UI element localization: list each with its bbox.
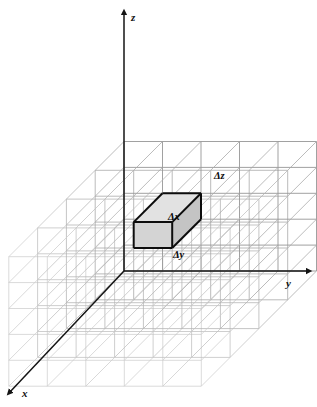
cv-face-left [134,222,173,248]
diagram-canvas: z y x Δx Δy Δz [0,0,317,407]
grid-scene [0,0,317,407]
delta-z-label: Δz [214,171,225,182]
delta-y-label: Δy [173,250,184,261]
axis-label-y: y [286,278,291,289]
axis-label-x: x [22,388,28,399]
delta-x-label: Δx [168,212,180,223]
axis-label-z: z [131,12,135,23]
grid-mesh [9,142,317,387]
